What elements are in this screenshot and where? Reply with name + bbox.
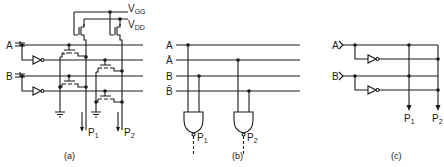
vdd-label: VDD [128, 19, 145, 31]
vdd-junction [118, 17, 122, 21]
junction-p1-a [84, 55, 88, 59]
output-p2-label: P2 [124, 127, 135, 139]
ground-icon-1 [55, 112, 65, 117]
line-label-b: B [166, 71, 173, 82]
input-b-label-c: B [332, 71, 339, 82]
junction-p1-b [84, 85, 88, 89]
inverter-b-icon [33, 87, 41, 95]
pulldown-transistor-a-p1 [60, 45, 86, 57]
nand-gate-p2-icon [234, 112, 253, 133]
input-a-label-c: A [332, 40, 339, 51]
line-label-b-bar: B̄ [166, 85, 173, 97]
c-b-to-inverter [355, 76, 368, 90]
inverter-a-bubble [41, 59, 44, 62]
input-b-connector-icon [339, 72, 343, 80]
c-inverter-a-bubble [376, 58, 379, 61]
b-to-inverter [22, 76, 33, 91]
c-inverter-b-icon [368, 86, 376, 94]
vgg-junction [108, 10, 112, 14]
gate-p2-bubble [242, 133, 245, 136]
gate-p1-label: P1 [197, 132, 208, 144]
c-inverter-b-bubble [376, 89, 379, 92]
panel-c-pla-symbolic: A B P1 P2 (c) [332, 40, 443, 161]
load-transistor-1 [74, 24, 86, 57]
pulldown-transistor-bbar-p2 [96, 91, 122, 102]
panel-b-gate-logic: A Ā B B̄ P1 P2 (b) [166, 40, 300, 161]
junction-ground-bbar-p2 [94, 100, 98, 104]
a-to-inverter [22, 45, 33, 60]
circuit-figure: VGG VDD A B [0, 0, 444, 167]
inverter-b-bubble [41, 90, 44, 93]
pulldown-transistor-b-p1 [60, 76, 86, 87]
junction-p2-bbar [120, 100, 124, 104]
line-label-a-bar: Ā [166, 55, 173, 66]
inverter-a-icon [33, 56, 41, 64]
c-node-p2-abar [436, 57, 440, 61]
input-a-label: A [6, 40, 13, 51]
load-transistor-2 [110, 24, 122, 72]
junction-ground-b-p1 [58, 85, 62, 89]
gate-p2-label: P2 [247, 132, 258, 144]
c-node-p2-bbar [436, 88, 440, 92]
junction-p2-abar [120, 69, 124, 73]
nand-gate-p1-icon [184, 112, 203, 133]
c-p2-arrow-icon [436, 105, 441, 111]
c-p1-arrow-icon [407, 105, 412, 111]
c-node-p1-a [407, 43, 411, 47]
c-output-p1-label: P1 [404, 113, 415, 125]
ground-icon-2 [91, 112, 101, 117]
input-b-label: B [6, 71, 13, 82]
caption-b: (b) [232, 151, 243, 161]
c-output-p2-label: P2 [432, 113, 443, 125]
output-p1-label: P1 [88, 127, 99, 139]
c-node-p1-b [407, 74, 411, 78]
line-label-a: A [166, 40, 173, 51]
c-inverter-a-icon [368, 55, 376, 63]
caption-c: (c) [391, 151, 402, 161]
panel-a-mos-circuit: VGG VDD A B [6, 3, 146, 161]
gate-p1-bubble [192, 133, 195, 136]
input-a-connector-icon [339, 41, 343, 49]
p2-arrow-icon [116, 127, 120, 132]
p1-arrow-icon [80, 127, 84, 132]
pulldown-transistor-abar-p2 [96, 60, 122, 72]
c-a-to-inverter [355, 45, 368, 59]
vgg-label: VGG [128, 3, 146, 15]
caption-a: (a) [64, 151, 75, 161]
